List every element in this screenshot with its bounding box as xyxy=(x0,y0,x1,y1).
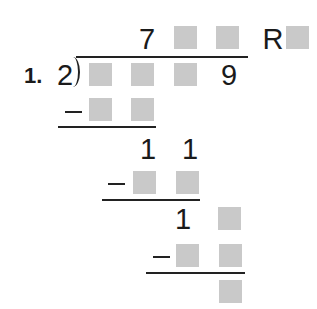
division-overline xyxy=(76,56,248,58)
step2-underline xyxy=(102,199,200,201)
quotient-blank-2[interactable] xyxy=(174,26,197,49)
quotient-digit-1: 7 xyxy=(136,27,158,51)
step1-subtract-blank-2[interactable] xyxy=(131,98,154,121)
step3-subtract-blank-2[interactable] xyxy=(219,244,242,267)
step2-difference-digit-2: 1 xyxy=(179,137,201,161)
problem-number: 1. xyxy=(24,64,42,88)
step2-subtract-blank-2[interactable] xyxy=(176,171,199,194)
quotient-blank-3[interactable] xyxy=(216,26,239,49)
dividend-blank-1[interactable] xyxy=(89,63,112,86)
step1-subtract-blank-1[interactable] xyxy=(89,98,112,121)
step2-difference-digit-1: 1 xyxy=(137,137,159,161)
dividend-blank-2[interactable] xyxy=(131,63,154,86)
dividend-digit-4: 9 xyxy=(218,63,240,87)
minus-sign-2 xyxy=(108,183,125,185)
dividend-blank-3[interactable] xyxy=(174,63,197,86)
remainder-label: R xyxy=(262,27,284,51)
final-remainder-blank[interactable] xyxy=(219,280,242,303)
step3-underline xyxy=(146,272,245,274)
division-bracket xyxy=(68,57,80,87)
step3-difference-blank-2[interactable] xyxy=(218,207,241,230)
step1-underline xyxy=(58,126,156,128)
remainder-blank[interactable] xyxy=(286,26,309,49)
step2-subtract-blank-1[interactable] xyxy=(133,171,156,194)
minus-sign-3 xyxy=(153,256,170,258)
minus-sign-1 xyxy=(65,111,82,113)
step3-difference-digit-1: 1 xyxy=(172,207,194,231)
step3-subtract-blank-1[interactable] xyxy=(176,244,199,267)
